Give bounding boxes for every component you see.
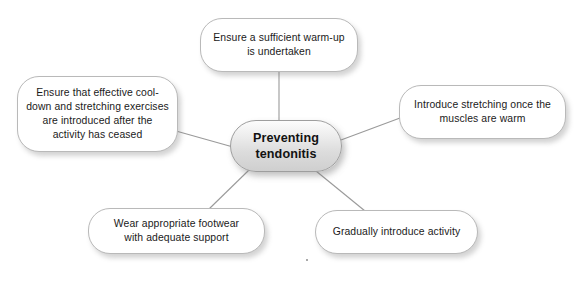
edge-center-to-gradual (316, 171, 365, 211)
node-stretching-line-1: Introduce stretching once the (408, 98, 557, 112)
node-cool-down-line-1: Ensure that effective cool- (26, 86, 169, 100)
node-footwear[interactable]: Wear appropriate footwear with adequate … (88, 208, 265, 254)
center-node-preventing-tendonitis[interactable]: Preventing tendonitis (230, 120, 342, 172)
node-warm-up-line-1: Ensure a sufficient warm-up (209, 31, 349, 45)
node-footwear-line-2: with adequate support (97, 231, 256, 245)
diagram-canvas: Preventing tendonitis Ensure a sufficien… (0, 0, 580, 281)
edge-center-to-stretching (341, 118, 400, 140)
node-gradual-activity-line-1: Gradually introduce activity (324, 225, 469, 239)
node-footwear-line-1: Wear appropriate footwear (97, 217, 256, 231)
center-node-line-1: Preventing (239, 130, 333, 146)
node-gradual-activity[interactable]: Gradually introduce activity (315, 210, 478, 254)
node-stretching-line-2: muscles are warm (408, 112, 557, 126)
node-warm-up[interactable]: Ensure a sufficient warm-up is undertake… (200, 18, 358, 72)
node-cool-down-line-3: are introduced after the (26, 114, 169, 128)
node-warm-up-line-2: is undertaken (209, 45, 349, 59)
node-cool-down-line-4: activity has ceased (26, 128, 169, 142)
center-node-line-2: tendonitis (239, 146, 333, 162)
edge-center-to-cool-down (176, 131, 233, 147)
stray-speck (306, 259, 308, 261)
node-cool-down-line-2: down and stretching exercises (26, 100, 169, 114)
edge-center-to-footwear (209, 170, 249, 209)
node-cool-down[interactable]: Ensure that effective cool- down and str… (17, 76, 178, 152)
node-stretching[interactable]: Introduce stretching once the muscles ar… (399, 85, 566, 139)
